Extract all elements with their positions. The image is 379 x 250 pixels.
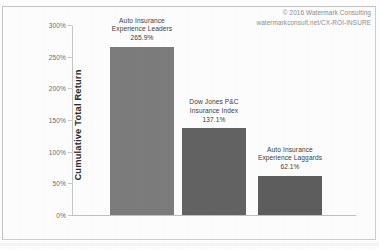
y-tick-label: 250%: [49, 53, 66, 60]
bar-value-label: 62.1%: [258, 163, 322, 172]
y-axis-line: [72, 26, 73, 216]
scan-smudge: [0, 243, 379, 246]
bar-label-dow-jones-pc-insurance-index: Dow Jones P&CInsurance Index137.1%: [189, 98, 238, 124]
bar-label-line2: Insurance Index: [189, 107, 238, 116]
y-tick-label: 100%: [49, 148, 66, 155]
y-tick-mark: [68, 88, 72, 89]
bar-label-auto-insurance-experience-laggards: Auto InsuranceExperience Laggards62.1%: [258, 146, 322, 172]
x-axis-line: [72, 215, 356, 216]
y-tick-label: 300%: [49, 22, 66, 29]
bar-label-line1: Dow Jones P&C: [189, 98, 238, 107]
y-tick-mark: [68, 183, 72, 184]
bar-value-label: 265.9%: [112, 34, 172, 43]
y-tick-label: 50%: [53, 180, 67, 187]
bar-label-line2: Experience Leaders: [112, 25, 172, 34]
bar-group-dow-jones-pc-insurance-index: Dow Jones P&CInsurance Index137.1%: [182, 25, 246, 215]
plot-area: 0%50%100%150%200%250%300% Auto Insurance…: [72, 24, 356, 216]
bar-label-line1: Auto Insurance: [258, 146, 322, 155]
y-tick-label: 150%: [49, 117, 66, 124]
y-tick-mark: [68, 152, 72, 153]
bar-label-auto-insurance-experience-leaders: Auto InsuranceExperience Leaders265.9%: [112, 17, 172, 43]
y-tick-label: 200%: [49, 85, 66, 92]
bar-label-line2: Experience Laggards: [258, 154, 322, 163]
bar-value-label: 137.1%: [189, 116, 238, 125]
y-tick-mark: [68, 215, 72, 216]
bar-group-auto-insurance-experience-leaders: Auto InsuranceExperience Leaders265.9%: [110, 25, 174, 215]
bar-label-line1: Auto Insurance: [112, 17, 172, 26]
y-tick-mark: [68, 57, 72, 58]
y-tick-mark: [68, 25, 72, 26]
chart-screenshot: © 2016 Watermark Consulting watermarkcon…: [0, 0, 379, 250]
bar-group-auto-insurance-experience-laggards: Auto InsuranceExperience Laggards62.1%: [258, 25, 322, 215]
y-tick-mark: [68, 120, 72, 121]
y-tick-label: 0%: [56, 212, 66, 219]
copyright-text: © 2016 Watermark Consulting: [256, 8, 371, 18]
